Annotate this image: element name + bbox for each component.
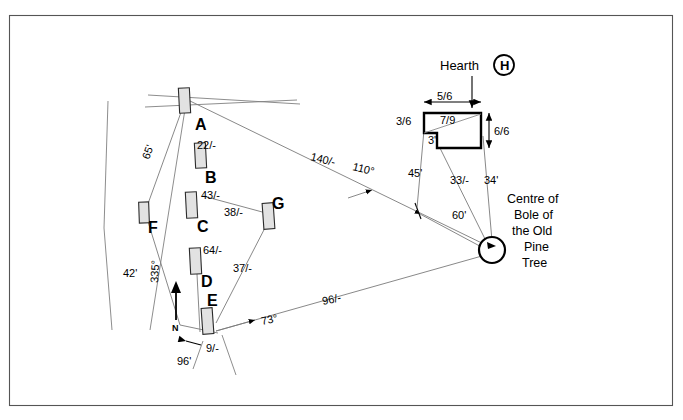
survey-plan-diagram: A B C D E F G 65' 22/- 43/- 38/- 64/- 37… (0, 0, 683, 420)
stone-label-F: F (148, 219, 158, 236)
measure-hearth-left-distance: 45' (408, 167, 422, 179)
stone-E (201, 308, 214, 335)
tree-label-line-2: Bole of (514, 208, 553, 222)
stone-label-D: D (201, 273, 213, 290)
measure-b-offset: 22/- (197, 139, 216, 151)
hearth-dim-diagonal: 7/9 (440, 114, 455, 126)
stone-C (185, 192, 197, 219)
hearth-dim-right-height: 6/6 (494, 125, 509, 137)
measure-hearth-right-distance: 34' (484, 174, 498, 186)
measure-e-offset: 9/- (206, 342, 219, 354)
tree-label-line-5: Tree (522, 256, 547, 270)
hearth-dim-top-width: 5/6 (437, 90, 452, 102)
stone-A (178, 88, 190, 114)
hearth-title-label: Hearth (440, 58, 479, 73)
stone-label-B: B (205, 169, 217, 186)
north-label: N (172, 323, 179, 333)
plan-canvas: A B C D E F G 65' 22/- 43/- 38/- 64/- 37… (0, 0, 683, 420)
stone-D (189, 248, 201, 275)
tree-label-line-4: Pine (524, 240, 549, 254)
measure-f-bottom-distance: 42' (123, 267, 137, 279)
measure-c-g-distance: 38/- (224, 206, 243, 218)
diagram-frame (10, 16, 673, 406)
tree-label-line-1: Centre of (507, 192, 559, 206)
measure-c-offset: 43/- (201, 189, 220, 201)
hearth-dim-left-height: 3/6 (396, 115, 411, 127)
measure-north-bearing: 335° (148, 260, 161, 283)
stone-label-G: G (272, 195, 284, 212)
measure-hearth-mid-distance: 33/- (450, 174, 469, 186)
tree-bole-circle (479, 237, 505, 263)
hearth-dim-notch: 3' (428, 134, 436, 146)
measure-d-offset: 64/- (203, 244, 222, 256)
measure-g-e-distance: 37/- (233, 262, 252, 274)
measure-bottom-baseline: 96' (177, 355, 191, 367)
stone-label-E: E (207, 292, 218, 309)
measure-station-tree-distance: 60' (452, 209, 466, 221)
tree-label-line-3: the Old (512, 224, 552, 238)
stone-label-C: C (197, 218, 209, 235)
stone-label-A: A (195, 116, 207, 133)
hearth-symbol-letter: H (500, 58, 509, 73)
